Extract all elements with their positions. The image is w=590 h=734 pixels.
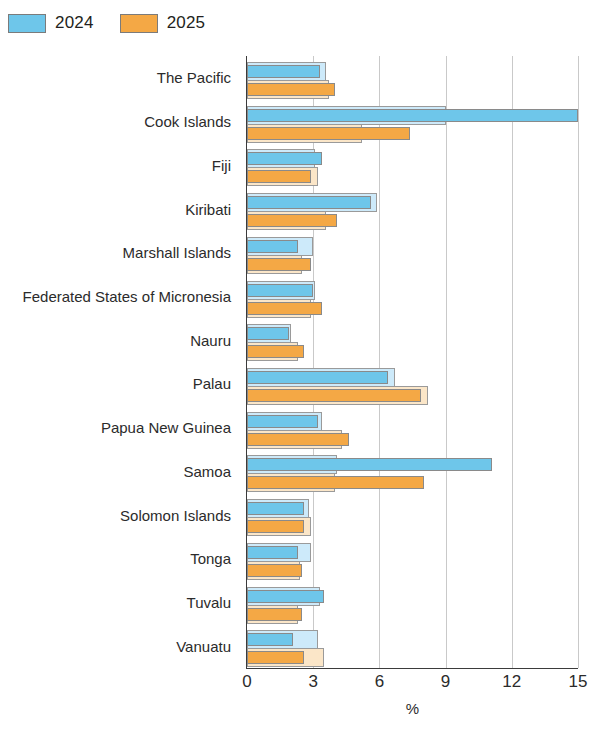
legend-item-2025[interactable]: 2025 <box>120 13 206 33</box>
bar-solid-2025 <box>247 214 337 227</box>
bar-2024-samoa[interactable] <box>247 458 578 471</box>
bar-group <box>247 537 578 581</box>
bar-solid-2025 <box>247 651 304 664</box>
x-axis-title: % <box>247 700 578 717</box>
category-label-fiji: Fiji <box>0 143 240 187</box>
bar-2025-solomon-islands[interactable] <box>247 520 578 533</box>
bar-group <box>247 449 578 493</box>
x-tick-label-3: 3 <box>308 672 317 692</box>
bar-solid-2024 <box>247 284 313 297</box>
legend-swatch-2024 <box>8 14 46 33</box>
bar-group <box>247 187 578 231</box>
x-tick-label-6: 6 <box>375 672 384 692</box>
legend-label-2024: 2024 <box>55 13 94 33</box>
bar-2025-tuvalu[interactable] <box>247 608 578 621</box>
bar-2025-samoa[interactable] <box>247 476 578 489</box>
bar-2024-the-pacific[interactable] <box>247 65 578 78</box>
bar-group <box>247 100 578 144</box>
bar-solid-2025 <box>247 476 424 489</box>
bar-solid-2024 <box>247 65 320 78</box>
x-tick-label-0: 0 <box>242 672 251 692</box>
category-label-palau: Palau <box>0 362 240 406</box>
bar-group <box>247 493 578 537</box>
category-label-vanuatu: Vanuatu <box>0 624 240 668</box>
bar-group <box>247 56 578 100</box>
bar-2025-palau[interactable] <box>247 389 578 402</box>
category-axis-labels: The PacificCook IslandsFijiKiribatiMarsh… <box>0 56 240 668</box>
bar-2024-cook-islands[interactable] <box>247 109 578 122</box>
bar-solid-2025 <box>247 608 302 621</box>
bar-solid-2024 <box>247 633 293 646</box>
category-label-tuvalu: Tuvalu <box>0 581 240 625</box>
plot-area <box>247 56 578 668</box>
category-label-the-pacific: The Pacific <box>0 56 240 100</box>
bar-2025-tonga[interactable] <box>247 564 578 577</box>
legend-label-2025: 2025 <box>167 13 206 33</box>
bar-solid-2025 <box>247 258 311 271</box>
legend-item-2024[interactable]: 2024 <box>8 13 94 33</box>
bar-2025-vanuatu[interactable] <box>247 651 578 664</box>
bar-solid-2025 <box>247 170 311 183</box>
x-axis-tick-labels: 03691215 <box>247 672 578 696</box>
bar-solid-2024 <box>247 502 304 515</box>
bar-solid-2024 <box>247 546 298 559</box>
bar-solid-2024 <box>247 458 492 471</box>
bar-group <box>247 231 578 275</box>
bar-solid-2025 <box>247 83 335 96</box>
x-tick-label-12: 12 <box>502 672 521 692</box>
bar-2025-fiji[interactable] <box>247 170 578 183</box>
bar-solid-2024 <box>247 109 578 122</box>
bar-solid-2024 <box>247 196 371 209</box>
category-label-papua-new-guinea: Papua New Guinea <box>0 406 240 450</box>
bar-solid-2025 <box>247 433 349 446</box>
bar-2025-cook-islands[interactable] <box>247 127 578 140</box>
bar-2024-kiribati[interactable] <box>247 196 578 209</box>
category-label-federated-states-of-micronesia: Federated States of Micronesia <box>0 275 240 319</box>
bar-2025-nauru[interactable] <box>247 345 578 358</box>
bar-group <box>247 143 578 187</box>
bar-solid-2025 <box>247 520 304 533</box>
bar-group <box>247 318 578 362</box>
bar-solid-2025 <box>247 345 304 358</box>
legend-swatch-2025 <box>120 14 158 33</box>
bar-2024-marshall-islands[interactable] <box>247 240 578 253</box>
bar-solid-2025 <box>247 127 410 140</box>
gridline-15 <box>578 56 579 668</box>
bar-solid-2025 <box>247 564 302 577</box>
bar-2024-tonga[interactable] <box>247 546 578 559</box>
bar-group <box>247 406 578 450</box>
bar-2025-papua-new-guinea[interactable] <box>247 433 578 446</box>
category-label-kiribati: Kiribati <box>0 187 240 231</box>
category-label-solomon-islands: Solomon Islands <box>0 493 240 537</box>
bar-group <box>247 362 578 406</box>
bar-solid-2024 <box>247 327 289 340</box>
category-label-cook-islands: Cook Islands <box>0 100 240 144</box>
bar-group <box>247 581 578 625</box>
bar-2024-nauru[interactable] <box>247 327 578 340</box>
bar-solid-2025 <box>247 302 322 315</box>
x-tick-label-9: 9 <box>441 672 450 692</box>
bar-rows <box>247 56 578 668</box>
bar-2025-federated-states-of-micronesia[interactable] <box>247 302 578 315</box>
category-label-marshall-islands: Marshall Islands <box>0 231 240 275</box>
category-label-samoa: Samoa <box>0 449 240 493</box>
bar-2024-vanuatu[interactable] <box>247 633 578 646</box>
bar-2024-solomon-islands[interactable] <box>247 502 578 515</box>
bar-2024-tuvalu[interactable] <box>247 590 578 603</box>
bar-solid-2025 <box>247 389 421 402</box>
bar-solid-2024 <box>247 415 318 428</box>
category-label-nauru: Nauru <box>0 318 240 362</box>
bar-2024-fiji[interactable] <box>247 152 578 165</box>
bar-group <box>247 275 578 319</box>
bar-2025-marshall-islands[interactable] <box>247 258 578 271</box>
bar-2024-federated-states-of-micronesia[interactable] <box>247 284 578 297</box>
bar-group <box>247 624 578 668</box>
bar-solid-2024 <box>247 152 322 165</box>
bar-solid-2024 <box>247 590 324 603</box>
bar-2025-the-pacific[interactable] <box>247 83 578 96</box>
chart-legend: 2024 2025 <box>8 8 205 38</box>
bar-solid-2024 <box>247 240 298 253</box>
bar-2024-palau[interactable] <box>247 371 578 384</box>
bar-2024-papua-new-guinea[interactable] <box>247 415 578 428</box>
bar-2025-kiribati[interactable] <box>247 214 578 227</box>
